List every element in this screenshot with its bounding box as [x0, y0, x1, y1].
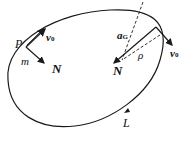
diagram: P m v0 N aG ρ N v0 L — [0, 0, 186, 150]
label-velocity-right: v0 — [170, 48, 178, 59]
diagram-graphics — [0, 0, 186, 150]
curve-direction-arrow — [124, 108, 130, 113]
label-accel: aG — [117, 30, 128, 41]
label-normal-left: N — [52, 62, 61, 75]
label-curve-l: L — [123, 117, 130, 129]
label-point-p: P — [15, 38, 22, 50]
label-mass-m: m — [21, 56, 29, 67]
label-radius: ρ — [138, 50, 143, 61]
label-velocity-left: v0 — [46, 32, 54, 43]
label-normal-right: N — [113, 64, 122, 77]
closed-curve — [8, 10, 163, 127]
